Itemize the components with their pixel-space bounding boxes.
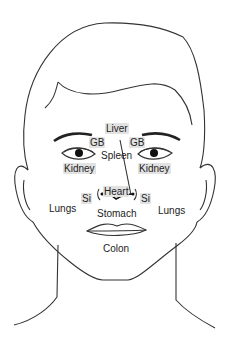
label-si-left: Si [81,193,92,204]
label-colon: Colon [103,243,129,254]
label-gb-left: GB [89,137,105,148]
label-stomach: Stomach [97,208,136,219]
hairline [45,82,192,125]
label-lungs-right: Lungs [158,205,185,216]
label-si-right: Si [140,193,151,204]
mouth [87,224,146,236]
hair-outline [25,23,204,115]
face-right-edge [200,110,205,168]
face-left-edge [24,115,28,170]
label-spleen: Spleen [101,150,132,161]
neck-left [14,245,58,325]
label-heart: Heart [103,186,129,197]
label-kidney-right: Kidney [138,163,171,174]
right-eyebrow [142,133,180,140]
label-lungs-left: Lungs [49,203,76,214]
label-gb-right: GB [129,137,145,148]
neck-right [176,243,215,328]
left-eyebrow [54,133,92,141]
face-outline-drawing [0,0,233,340]
label-liver: Liver [105,123,129,134]
face-diagram: Liver GB GB Spleen Kidney Kidney Heart S… [0,0,233,340]
label-kidney-left: Kidney [63,163,96,174]
